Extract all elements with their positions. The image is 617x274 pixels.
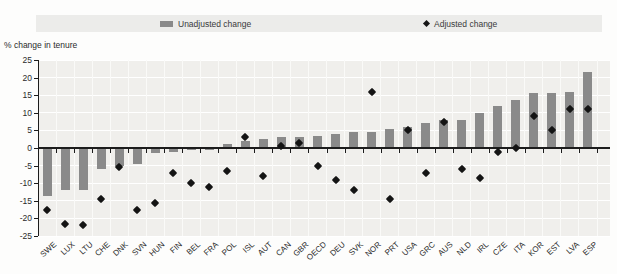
y-axis-line: [38, 60, 39, 236]
bar-NOR: [367, 132, 376, 148]
bar-LUX: [61, 148, 70, 190]
x-tick-11: [236, 149, 237, 153]
y-axis-title: % change in tenure: [4, 40, 77, 50]
y-tick-label-25: 25: [2, 55, 32, 65]
x-tick-0: [38, 149, 39, 153]
x-category-label-LVA: LVA: [565, 240, 581, 256]
y-tick--5: [34, 166, 38, 167]
x-category-label-AUS: AUS: [437, 240, 455, 258]
y-tick-label-15: 15: [2, 90, 32, 100]
x-tick-4: [110, 149, 111, 153]
x-category-label-FRA: FRA: [202, 240, 220, 257]
diamond-GRC: [421, 168, 429, 176]
bar-SVN: [133, 148, 142, 164]
diamond-AUT: [259, 172, 267, 180]
x-tick-25: [489, 149, 490, 153]
bar-EST: [547, 93, 556, 148]
x-tick-2: [74, 149, 75, 153]
x-category-label-ITA: ITA: [512, 240, 527, 255]
x-category-label-NLD: NLD: [455, 240, 473, 257]
x-category-label-NOR: NOR: [363, 240, 382, 259]
x-category-label-POL: POL: [220, 240, 238, 257]
x-category-label-ISL: ISL: [241, 240, 256, 255]
y-tick-label--25: -25: [2, 231, 32, 241]
y-tick-10: [34, 113, 38, 114]
x-tick-6: [146, 149, 147, 153]
diamond-FIN: [169, 168, 177, 176]
bar-LVA: [565, 92, 574, 148]
x-tick-17: [345, 149, 346, 153]
x-tick-13: [272, 149, 273, 153]
x-tick-27: [525, 149, 526, 153]
x-tick-30: [579, 149, 580, 153]
x-category-label-CHE: CHE: [94, 240, 113, 258]
x-tick-29: [561, 149, 562, 153]
diamond-IRL: [476, 174, 484, 182]
x-category-label-LUX: LUX: [58, 240, 76, 257]
legend-item-unadjusted: Unadjusted change: [160, 15, 251, 32]
y-tick-20: [34, 78, 38, 79]
x-tick-22: [435, 149, 436, 153]
x-category-label-GRC: GRC: [417, 240, 436, 259]
x-category-label-OECD: OECD: [305, 240, 328, 262]
diamond-PRT: [385, 195, 393, 203]
bar-DEU: [331, 134, 340, 148]
diamond-NLD: [458, 165, 466, 173]
y-tick--15: [34, 201, 38, 202]
x-category-label-ESP: ESP: [581, 240, 599, 257]
x-category-label-SVK: SVK: [347, 240, 365, 257]
bar-PRT: [385, 129, 394, 148]
x-category-label-SWE: SWE: [38, 240, 58, 259]
chart-legend: Unadjusted change Adjusted change: [36, 15, 602, 32]
y-tick-15: [34, 95, 38, 96]
x-tick-28: [543, 149, 544, 153]
y-tick--10: [34, 183, 38, 184]
diamond-SVK: [349, 186, 357, 194]
x-category-label-EST: EST: [545, 240, 563, 257]
x-category-label-PRT: PRT: [383, 240, 401, 257]
diamond-FRA: [205, 182, 213, 190]
bar-LTU: [79, 148, 88, 190]
x-category-label-CZE: CZE: [491, 240, 509, 257]
x-tick-31: [597, 149, 598, 153]
bar-SVK: [349, 132, 358, 148]
y-tick-label-0: 0: [2, 143, 32, 153]
bar-CZE: [493, 106, 502, 148]
x-tick-10: [218, 149, 219, 153]
bar-NLD: [457, 120, 466, 148]
y-tick-label--15: -15: [2, 196, 32, 206]
x-tick-9: [200, 149, 201, 153]
diamond-POL: [223, 167, 231, 175]
x-category-label-HUN: HUN: [147, 240, 166, 258]
x-tick-14: [290, 149, 291, 153]
x-category-label-FIN: FIN: [169, 240, 185, 255]
x-category-label-LTU: LTU: [77, 240, 94, 256]
x-tick-26: [507, 149, 508, 153]
diamond-swatch-icon: [423, 20, 430, 27]
y-tick-label--20: -20: [2, 213, 32, 223]
y-tick-25: [34, 60, 38, 61]
y-tick--20: [34, 218, 38, 219]
diamond-SWE: [43, 205, 51, 213]
bar-KOR: [529, 93, 538, 148]
legend-label-unadjusted: Unadjusted change: [178, 19, 251, 29]
x-category-label-DEU: DEU: [328, 240, 347, 258]
y-tick-label--10: -10: [2, 178, 32, 188]
y-tick-5: [34, 130, 38, 131]
y-tick-label-5: 5: [2, 125, 32, 135]
bar-GRC: [421, 123, 430, 148]
y-tick-label--5: -5: [2, 161, 32, 171]
x-tick-12: [254, 149, 255, 153]
x-category-label-USA: USA: [400, 240, 418, 258]
y-tick-label-20: 20: [2, 73, 32, 83]
y-tick-label-10: 10: [2, 108, 32, 118]
x-tick-20: [399, 149, 400, 153]
x-tick-24: [471, 149, 472, 153]
diamond-CHE: [97, 195, 105, 203]
x-tick-5: [128, 149, 129, 153]
x-tick-23: [453, 149, 454, 153]
diamond-LUX: [61, 219, 69, 227]
x-tick-8: [182, 149, 183, 153]
x-tick-15: [308, 149, 309, 153]
x-tick-19: [381, 149, 382, 153]
